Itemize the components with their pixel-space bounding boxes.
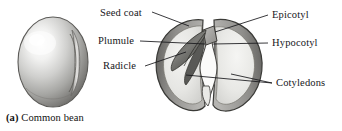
caption-tag: (a) [6,112,19,123]
label-hypocotyl: Hypocotyl [272,38,318,49]
label-radicle: Radicle [103,61,136,72]
label-plumule: Plumule [98,36,134,47]
whole-seed-highlight-core [29,34,45,46]
label-epicotyl: Epicotyl [272,10,309,21]
split-seed-drawing [156,19,262,111]
figure-caption: (a) Common bean [6,112,84,123]
caption-text: Common bean [21,112,84,123]
bean-seed-diagram: Seed coat Plumule Radicle Epicotyl Hypoc… [0,0,342,131]
whole-seed-drawing [18,17,88,107]
cotyledon-right [213,19,262,111]
leader-seed-coat [152,12,189,26]
label-cotyledons: Cotyledons [276,78,325,89]
label-seed-coat: Seed coat [100,8,142,19]
